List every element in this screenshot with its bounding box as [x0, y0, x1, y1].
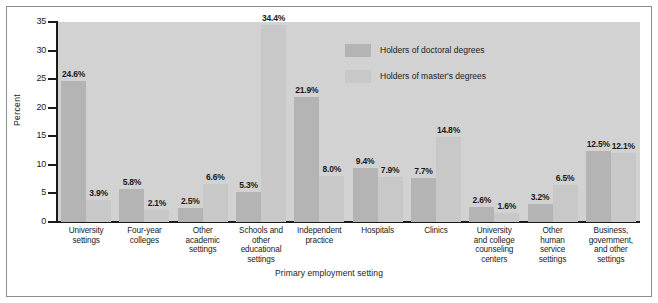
bar-value-label: 12.1% [612, 142, 635, 151]
y-axis-title: Percent [12, 80, 22, 140]
y-tick-label-wrap: 35 [0, 17, 46, 27]
bar-value-label: 2.1% [148, 199, 167, 208]
x-category-label: Otherhumanservicesettings [523, 226, 581, 264]
bar-doctoral[interactable]: 5.8% [119, 189, 144, 222]
bar-doctoral[interactable]: 2.6% [469, 207, 494, 222]
bar-value-label: 2.5% [181, 197, 200, 206]
x-category-label: Independentpractice [290, 226, 348, 245]
x-category-label: Universitysettings [57, 226, 115, 245]
x-category-label: Hospitals [349, 226, 407, 236]
y-tick-label: 10 [4, 160, 46, 169]
bar-doctoral[interactable]: 24.6% [61, 81, 86, 222]
y-tick-label: 5 [4, 188, 46, 197]
x-category-label-line: settings [174, 245, 232, 255]
bar-doctoral[interactable]: 3.2% [528, 204, 553, 222]
y-tick-mark [48, 164, 57, 166]
bar-value-label: 14.8% [437, 126, 460, 135]
x-category-label-line: Schools and [232, 226, 290, 236]
bar-group: 21.9%8.0% [290, 22, 348, 222]
legend-swatch [345, 70, 371, 83]
bar-masters[interactable]: 7.9% [378, 177, 403, 222]
bar-pair: 2.5%6.6% [174, 22, 232, 222]
legend-label: Holders of master's degrees [380, 72, 486, 81]
bar-doctoral[interactable]: 21.9% [294, 97, 319, 222]
x-category-label: Business,government,and othersettings [582, 226, 640, 264]
bar-group: 2.5%6.6% [174, 22, 232, 222]
bar-masters[interactable]: 6.5% [553, 185, 578, 222]
x-category-label-line: human [523, 236, 581, 246]
bar-masters[interactable]: 14.8% [436, 137, 461, 222]
y-tick-label-wrap: 10 [0, 160, 46, 170]
x-category-label: Universityand collegecounselingcenters [465, 226, 523, 264]
bar-value-label: 3.9% [89, 189, 108, 198]
y-tick-label-wrap: 5 [0, 188, 46, 198]
y-tick-label: 20 [4, 103, 46, 112]
bar-masters[interactable]: 12.1% [611, 153, 636, 222]
x-category-label-line: centers [465, 255, 523, 265]
x-category-label-line: Other [174, 226, 232, 236]
bar-doctoral[interactable]: 12.5% [586, 151, 611, 222]
y-tick-label-wrap: 15 [0, 131, 46, 141]
y-tick-mark [48, 221, 57, 223]
x-category-label-line: colleges [115, 236, 173, 246]
bar-doctoral[interactable]: 2.5% [178, 208, 203, 222]
y-tick-mark [48, 192, 57, 194]
x-category-label-line: settings [582, 255, 640, 265]
bar-value-label: 1.6% [497, 202, 516, 211]
bar-value-label: 6.6% [206, 173, 225, 182]
y-tick-mark [48, 107, 57, 109]
x-category-label-line: Clinics [407, 226, 465, 236]
x-category-label-line: Business, [582, 226, 640, 236]
y-tick-mark [48, 78, 57, 80]
x-category-label-line: settings [523, 255, 581, 265]
x-category-label-line: service [523, 245, 581, 255]
x-category-label-line: and college [465, 236, 523, 246]
y-tick-label: 30 [4, 46, 46, 55]
bar-value-label: 7.7% [414, 167, 433, 176]
legend-item: Holders of doctoral degrees [345, 44, 565, 57]
x-category-label-line: other [232, 236, 290, 246]
x-category-label-line: counseling [465, 245, 523, 255]
bar-value-label: 12.5% [587, 140, 610, 149]
x-category-label-line: University [465, 226, 523, 236]
bar-doctoral[interactable]: 5.3% [236, 192, 261, 222]
bar-value-label: 6.5% [556, 174, 575, 183]
bar-group: 24.6%3.9% [57, 22, 115, 222]
legend-swatch [345, 44, 371, 57]
bar-value-label: 24.6% [62, 70, 85, 79]
bar-value-label: 7.9% [381, 166, 400, 175]
bar-masters[interactable]: 8.0% [319, 176, 344, 222]
bar-doctoral[interactable]: 9.4% [353, 168, 378, 222]
x-category-label-line: University [57, 226, 115, 236]
y-tick-label: 0 [4, 217, 46, 226]
bar-value-label: 34.4% [262, 14, 285, 23]
bar-masters[interactable]: 34.4% [261, 25, 286, 222]
bar-pair: 12.5%12.1% [582, 22, 640, 222]
x-category-label-line: government, [582, 236, 640, 246]
bar-masters[interactable]: 3.9% [86, 200, 111, 222]
y-tick-label-wrap: 25 [0, 74, 46, 84]
x-category-label: Clinics [407, 226, 465, 236]
bar-value-label: 21.9% [295, 86, 318, 95]
x-category-label: Otheracademicsettings [174, 226, 232, 255]
bar-doctoral[interactable]: 7.7% [411, 178, 436, 222]
x-category-label-line: practice [290, 236, 348, 246]
bar-masters[interactable]: 1.6% [494, 213, 519, 222]
x-category-label-line: and other [582, 245, 640, 255]
legend-item: Holders of master's degrees [345, 70, 565, 83]
y-tick-mark [48, 21, 57, 23]
bar-value-label: 3.2% [531, 193, 550, 202]
x-category-label-line: educational [232, 245, 290, 255]
bar-pair: 21.9%8.0% [290, 22, 348, 222]
bar-value-label: 5.3% [239, 181, 258, 190]
x-category-label-line: Hospitals [349, 226, 407, 236]
bar-pair: 5.3%34.4% [232, 22, 290, 222]
x-category-label-line: academic [174, 236, 232, 246]
bar-group: 12.5%12.1% [582, 22, 640, 222]
x-category-label-line: Four-year [115, 226, 173, 236]
x-category-label-line: Independent [290, 226, 348, 236]
y-tick-label-wrap: 30 [0, 46, 46, 56]
bar-masters[interactable]: 6.6% [203, 184, 228, 222]
x-axis-title: Primary employment setting [0, 268, 658, 278]
bar-masters[interactable]: 2.1% [144, 210, 169, 222]
